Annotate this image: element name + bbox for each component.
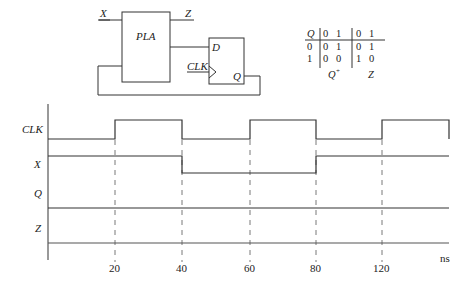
signal-label-z: Z	[35, 222, 42, 234]
svg-text:0: 0	[336, 53, 341, 64]
pla-block	[122, 12, 170, 82]
tick-80: 80	[310, 262, 322, 274]
timing-diagram: CLK X Q Z 20 40 60 80 120 ns	[22, 104, 450, 274]
tick-20: 20	[109, 262, 121, 274]
tick-40: 40	[176, 262, 188, 274]
signal-label-x: X	[33, 158, 42, 170]
x-waveform	[48, 156, 449, 173]
time-unit-label: ns	[440, 252, 450, 264]
svg-text:1: 1	[369, 41, 374, 52]
svg-text:1: 1	[336, 41, 341, 52]
svg-text:1: 1	[307, 53, 312, 64]
caption-output: Z	[368, 69, 374, 80]
caption-next-state: Q	[328, 69, 336, 80]
signal-label-q: Q	[34, 187, 42, 199]
sequential-circuit-diagram: X PLA Z D CLK Q Q 0 1 0 1 0 0 1 0 1 1 0 …	[0, 0, 468, 290]
x-input-label: X	[99, 7, 108, 19]
svg-text:0: 0	[323, 41, 328, 52]
circuit	[98, 12, 260, 95]
tick-60: 60	[244, 262, 256, 274]
svg-text:1: 1	[369, 28, 374, 39]
svg-text:0: 0	[356, 28, 361, 39]
table-header-q: Q	[307, 28, 315, 39]
ff-d-label: D	[211, 41, 220, 53]
tick-120: 120	[373, 262, 390, 274]
svg-text:0: 0	[323, 53, 328, 64]
clk-waveform	[48, 120, 449, 139]
pla-label: PLA	[135, 30, 156, 42]
svg-text:0: 0	[356, 41, 361, 52]
signal-label-clk: CLK	[22, 123, 43, 135]
svg-text:0: 0	[307, 41, 312, 52]
clock-triangle-icon	[209, 66, 216, 78]
ff-clk-label: CLK	[187, 60, 208, 72]
svg-text:1: 1	[356, 53, 361, 64]
svg-text:0: 0	[323, 28, 328, 39]
ff-q-label: Q	[233, 70, 241, 82]
svg-text:+: +	[336, 67, 340, 75]
z-output-label: Z	[185, 7, 192, 19]
svg-text:1: 1	[336, 28, 341, 39]
svg-text:0: 0	[369, 53, 374, 64]
state-table: Q 0 1 0 1 0 0 1 0 1 1 0 0 1 0 Q + Z	[305, 28, 385, 80]
